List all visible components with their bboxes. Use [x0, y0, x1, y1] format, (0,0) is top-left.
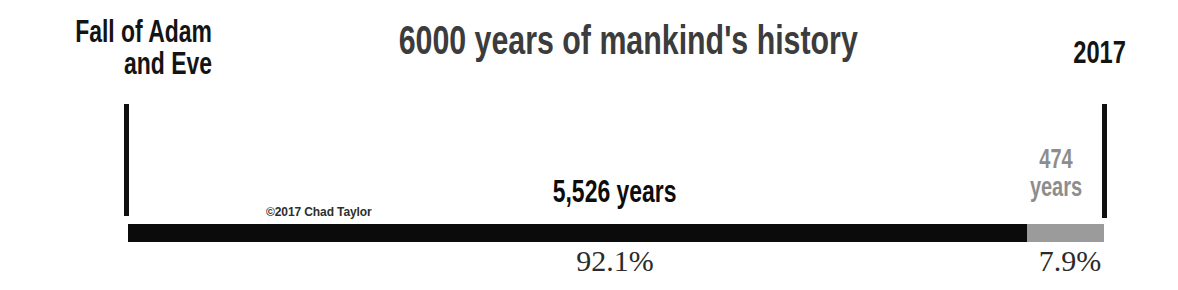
- bar-segment-two-percent-label: 7.9%: [1000, 244, 1140, 278]
- axis-endpoint-label-left-line1: Fall of Adam: [55, 16, 212, 48]
- chart-title-text: 6000 years of mankind's history: [398, 20, 857, 62]
- bar-segment-one-data-label: 5,526 years: [470, 176, 760, 208]
- axis-endpoint-label-right: 2017: [1040, 36, 1160, 69]
- axis-endpoint-label-right-text: 2017: [1074, 36, 1127, 69]
- axis-tick-right: [1102, 104, 1107, 218]
- bar-segment-two-data-label: 474 years: [1014, 146, 1098, 201]
- infographic-canvas: Fall of Adam and Eve 6000 years of manki…: [0, 0, 1178, 290]
- axis-endpoint-label-left: Fall of Adam and Eve: [0, 16, 212, 79]
- axis-tick-left: [124, 104, 129, 216]
- axis-endpoint-label-left-line2: and Eve: [55, 48, 212, 80]
- bar-segment-two: [1027, 224, 1104, 242]
- bar-segment-one-percent-label: 92.1%: [505, 244, 725, 278]
- bar-segment-two-data-label-line2: years: [1025, 174, 1087, 202]
- bar-segment-two-data-label-line1: 474: [1025, 146, 1087, 174]
- bar-segment-one: [128, 224, 1027, 242]
- copyright-credit: ©2017 Chad Taylor: [266, 205, 372, 219]
- stacked-bar: [128, 224, 1104, 242]
- bar-segment-one-data-label-text: 5,526 years: [553, 176, 677, 208]
- chart-title: 6000 years of mankind's history: [248, 20, 1008, 62]
